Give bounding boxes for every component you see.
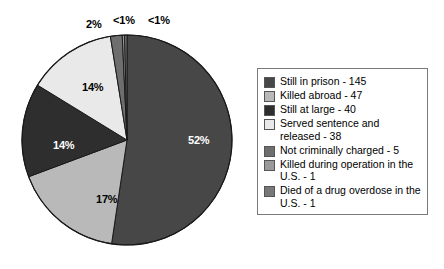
legend-item: Still in prison - 145 xyxy=(264,75,422,88)
chart-legend: Still in prison - 145Killed abroad - 47S… xyxy=(257,68,428,215)
legend-item-label: Died of a drug overdose in the U.S. - 1 xyxy=(280,184,422,210)
legend-color-swatch-icon xyxy=(264,119,275,130)
pie-slice-percent-label: 2% xyxy=(86,19,102,30)
legend-item-label: Killed during operation in the U.S. - 1 xyxy=(280,158,422,184)
legend-color-swatch-icon xyxy=(264,91,275,102)
legend-item: Still at large - 40 xyxy=(264,103,422,116)
pie-svg xyxy=(0,0,250,269)
legend-item-label: Not criminally charged - 5 xyxy=(280,144,399,157)
legend-item-label: Still in prison - 145 xyxy=(280,75,366,88)
legend-color-swatch-icon xyxy=(264,186,275,197)
legend-color-swatch-icon xyxy=(264,160,275,171)
legend-color-swatch-icon xyxy=(264,146,275,157)
legend-item: Killed abroad - 47 xyxy=(264,89,422,102)
legend-item-label: Still at large - 40 xyxy=(280,103,356,116)
pie-slice-percent-label: 52% xyxy=(188,135,209,146)
pie-slice-percent-label: <1% xyxy=(148,15,170,26)
legend-item: Not criminally charged - 5 xyxy=(264,144,422,157)
legend-item: Died of a drug overdose in the U.S. - 1 xyxy=(264,184,422,210)
legend-color-swatch-icon xyxy=(264,105,275,116)
legend-color-swatch-icon xyxy=(264,77,275,88)
pie-slice xyxy=(112,35,232,245)
pie-slice-percent-label: 14% xyxy=(53,140,74,151)
pie-slice-percent-label: 17% xyxy=(96,194,117,205)
legend-item-label: Killed abroad - 47 xyxy=(280,89,362,102)
pie-plot-area: 52%17%14%14%2%<1%<1% xyxy=(0,0,250,269)
pie-slice-percent-label: 14% xyxy=(82,82,103,93)
pie-chart-figure: 52%17%14%14%2%<1%<1% Still in prison - 1… xyxy=(0,0,444,269)
pie-slice-percent-label: <1% xyxy=(113,15,135,26)
legend-item: Served sentence and released - 38 xyxy=(264,117,422,143)
legend-items-list: Still in prison - 145Killed abroad - 47S… xyxy=(264,75,422,210)
legend-item-label: Served sentence and released - 38 xyxy=(280,117,422,143)
legend-item: Killed during operation in the U.S. - 1 xyxy=(264,158,422,184)
